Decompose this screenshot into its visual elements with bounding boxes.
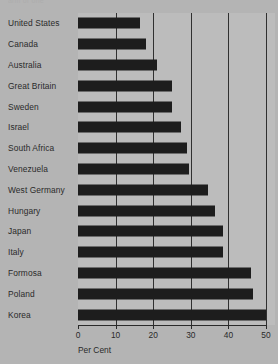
bar-row: Venezuela xyxy=(0,159,278,180)
category-label-sweden: Sweden xyxy=(8,102,39,112)
cropped-header-text: arm or one xyxy=(0,0,278,7)
bar-row: Italy xyxy=(0,242,278,263)
category-label-australia: Australia xyxy=(8,60,41,70)
bar-row: United States xyxy=(0,13,278,34)
category-label-venezuela: Venezuela xyxy=(8,164,48,174)
bar-row: Hungary xyxy=(0,200,278,221)
bar-sweden xyxy=(78,101,172,112)
cropped-header-label: arm or one xyxy=(0,0,278,4)
category-label-canada: Canada xyxy=(8,39,38,49)
bar-venezuela xyxy=(78,163,189,174)
bar-row: Poland xyxy=(0,283,278,304)
bar-great-britain xyxy=(78,80,172,91)
bar-japan xyxy=(78,226,223,237)
category-label-west-germany: West Germany xyxy=(8,185,65,195)
bar-row: Israel xyxy=(0,117,278,138)
bar-row: Great Britain xyxy=(0,75,278,96)
category-label-japan: Japan xyxy=(8,226,31,236)
tick-label-10: 10 xyxy=(111,330,120,340)
bar-italy xyxy=(78,247,223,258)
category-label-italy: Italy xyxy=(8,247,24,257)
tick-label-40: 40 xyxy=(224,330,233,340)
category-label-poland: Poland xyxy=(8,289,35,299)
tick-mark-0 xyxy=(78,325,79,329)
category-label-united-states: United States xyxy=(8,18,60,28)
category-label-great-britain: Great Britain xyxy=(8,81,56,91)
bar-row: West Germany xyxy=(0,179,278,200)
tick-label-30: 30 xyxy=(186,330,195,340)
bar-united-states xyxy=(78,18,140,29)
category-label-formosa: Formosa xyxy=(8,268,42,278)
bar-row: Formosa xyxy=(0,263,278,284)
tick-label-20: 20 xyxy=(149,330,158,340)
bar-formosa xyxy=(78,267,251,278)
category-label-israel: Israel xyxy=(8,122,29,132)
tick-mark-50 xyxy=(266,325,267,329)
bar-south-africa xyxy=(78,143,187,154)
bar-hungary xyxy=(78,205,215,216)
bar-chart: arm or one United StatesCanadaAustraliaG… xyxy=(0,0,278,364)
bar-poland xyxy=(78,288,253,299)
x-axis-line xyxy=(78,325,266,326)
bar-rows: United StatesCanadaAustraliaGreat Britai… xyxy=(0,13,278,325)
tick-label-50: 50 xyxy=(261,330,270,340)
tick-mark-10 xyxy=(116,325,117,329)
tick-mark-20 xyxy=(153,325,154,329)
bar-korea xyxy=(78,309,266,320)
category-label-hungary: Hungary xyxy=(8,206,40,216)
tick-mark-40 xyxy=(228,325,229,329)
bar-row: Australia xyxy=(0,55,278,76)
category-label-south-africa: South Africa xyxy=(8,143,54,153)
bar-canada xyxy=(78,39,146,50)
tick-label-0: 0 xyxy=(76,330,81,340)
tick-mark-30 xyxy=(191,325,192,329)
category-label-korea: Korea xyxy=(8,310,31,320)
bar-israel xyxy=(78,122,181,133)
bar-row: Japan xyxy=(0,221,278,242)
bar-row: Sweden xyxy=(0,96,278,117)
bar-row: Korea xyxy=(0,304,278,325)
bar-australia xyxy=(78,59,157,70)
bar-row: South Africa xyxy=(0,138,278,159)
bar-west-germany xyxy=(78,184,208,195)
bar-row: Canada xyxy=(0,34,278,55)
x-axis-title: Per Cent xyxy=(78,345,111,355)
